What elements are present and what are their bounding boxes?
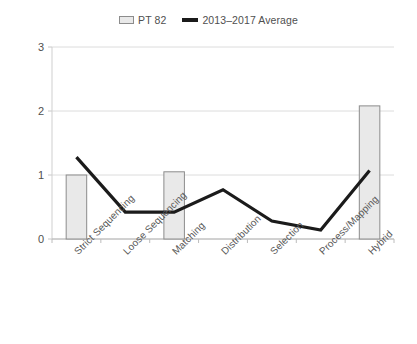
x-tick-marks-group (52, 239, 394, 243)
chart-container: PT 82 2013–2017 Average 0123 Strict Sequ… (0, 0, 417, 344)
bar (66, 175, 87, 239)
y-tick-label: 3 (22, 41, 44, 53)
y-tick-label: 2 (22, 105, 44, 117)
y-tick-label: 0 (22, 233, 44, 245)
chart-svg (0, 0, 417, 344)
plot-area: 0123 Strict SequencingLoose SequencingMa… (0, 0, 417, 344)
line-series (76, 157, 369, 230)
line-series-group (76, 157, 369, 230)
gridlines-group (52, 47, 394, 239)
axes-group (48, 47, 394, 239)
y-tick-label: 1 (22, 169, 44, 181)
